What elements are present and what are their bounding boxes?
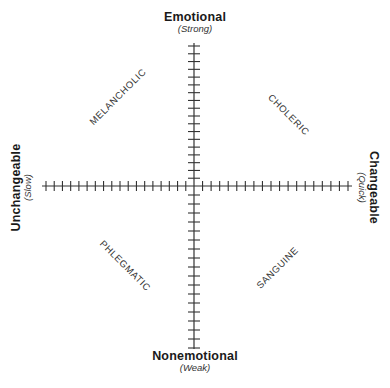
pole-emotional-sublabel: (Strong) xyxy=(145,24,245,34)
pole-nonemotional-sublabel: (Weak) xyxy=(135,363,255,373)
pole-changeable-sublabel: (Quick) xyxy=(356,133,366,243)
pole-changeable: Changeable (Quick) xyxy=(356,133,379,243)
pole-nonemotional: Nonemotional (Weak) xyxy=(135,350,255,373)
pole-emotional: Emotional (Strong) xyxy=(145,11,245,34)
pole-unchangeable: Unchangeable (Slow) xyxy=(10,133,33,243)
axes-graphic xyxy=(0,0,390,388)
pole-changeable-label: Changeable xyxy=(366,133,379,243)
pole-unchangeable-sublabel: (Slow) xyxy=(24,133,34,243)
